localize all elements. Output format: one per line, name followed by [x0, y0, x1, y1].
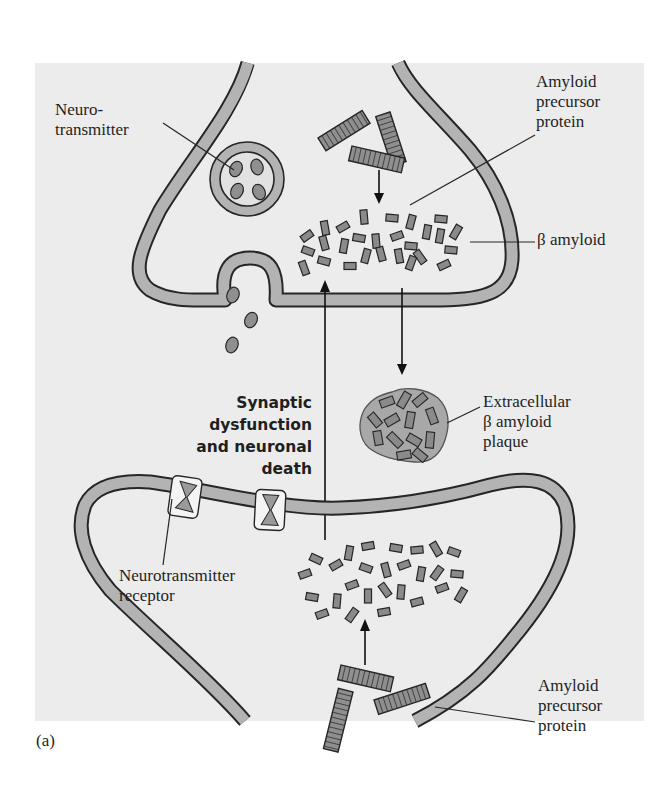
panel-label: (a)	[36, 731, 55, 751]
amyloid-synapse-diagram: Neuro- transmitter Amyloid precursor pro…	[0, 0, 669, 786]
label-amyloid-precursor-protein-bottom: Amyloid precursor protein	[538, 676, 602, 736]
label-synaptic-dysfunction: Synaptic dysfunction and neuronal death	[170, 392, 312, 480]
synaptic-vesicle	[210, 142, 284, 216]
label-beta-amyloid: β amyloid	[537, 230, 606, 250]
extracellular-plaque	[360, 389, 448, 463]
neurotransmitter-receptor-2	[254, 489, 286, 531]
label-neurotransmitter: Neuro- transmitter	[55, 100, 129, 140]
label-amyloid-precursor-protein-top: Amyloid precursor protein	[536, 72, 600, 132]
label-neurotransmitter-receptor: Neurotransmitter receptor	[119, 566, 235, 606]
label-extracellular-plaque: Extracellular β amyloid plaque	[483, 392, 571, 452]
neurotransmitter-receptor-1	[167, 475, 202, 519]
